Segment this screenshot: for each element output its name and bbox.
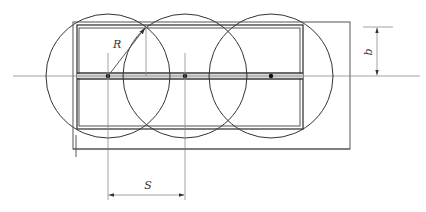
spacing-label: S [144, 179, 152, 192]
half-width-label: b [362, 48, 375, 55]
center-point-3 [269, 74, 273, 78]
radius-line [108, 28, 145, 76]
radius-label: R [112, 38, 121, 51]
coverage-diagram: R b S [0, 0, 426, 212]
